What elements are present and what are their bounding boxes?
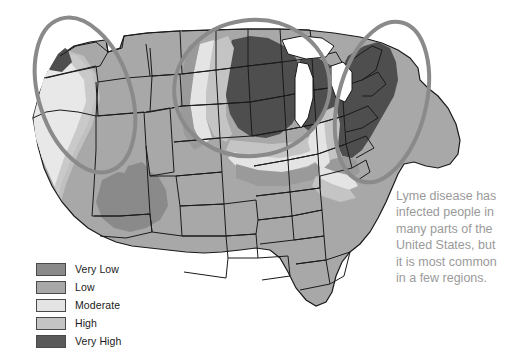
- caption-line-3: many parts of the: [396, 221, 508, 237]
- caption-line-4: United States, but: [396, 237, 508, 253]
- caption-line-2: infected people in: [396, 204, 508, 220]
- caption-line-1: Lyme disease has: [396, 188, 508, 204]
- legend-swatch-very-high: [36, 335, 66, 348]
- caption-line-5: it is most common: [396, 254, 508, 270]
- legend-swatch-moderate: [36, 299, 66, 312]
- legend-label-very-low: Very Low: [75, 263, 119, 275]
- legend-item-high: High: [36, 314, 186, 332]
- legend-swatch-high: [36, 317, 66, 330]
- legend-label-moderate: Moderate: [75, 299, 120, 311]
- legend-item-very-low: Very Low: [36, 260, 186, 278]
- caption-text: Lyme disease has infected people in many…: [396, 188, 508, 286]
- legend-item-moderate: Moderate: [36, 296, 186, 314]
- legend-label-very-high: Very High: [75, 335, 121, 347]
- legend-item-very-high: Very High: [36, 332, 186, 350]
- legend-label-low: Low: [75, 281, 95, 293]
- legend-item-low: Low: [36, 278, 186, 296]
- caption-line-6: in a few regions.: [396, 270, 508, 286]
- legend-swatch-low: [36, 281, 66, 294]
- legend-swatch-very-low: [36, 263, 66, 276]
- risk-legend: Very Low Low Moderate High Very High: [36, 260, 186, 350]
- legend-label-high: High: [75, 317, 97, 329]
- lyme-disease-risk-figure: Very Low Low Moderate High Very High Lym…: [0, 0, 508, 354]
